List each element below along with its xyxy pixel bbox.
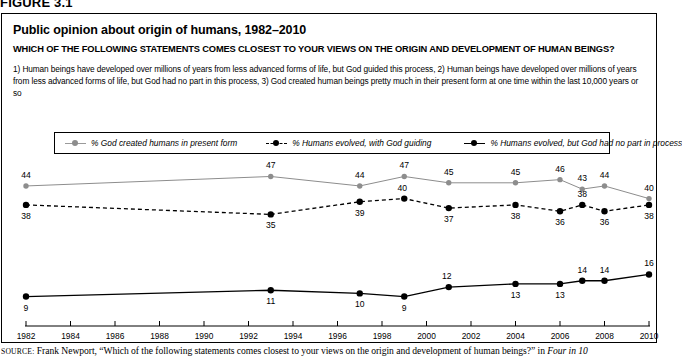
x-axis-tick-label: 2002 xyxy=(462,331,481,341)
data-point xyxy=(602,183,607,188)
data-point-label: 40 xyxy=(397,184,407,193)
data-point xyxy=(357,290,363,296)
data-point xyxy=(579,278,585,284)
chart-subtitle: WHICH OF THE FOLLOWING STATEMENTS COMES … xyxy=(13,44,615,54)
source-note: SOURCE: Frank Newport, “Which of the fol… xyxy=(1,345,657,358)
data-point xyxy=(23,202,29,208)
data-point-label: 37 xyxy=(444,215,454,224)
legend-marker-icon xyxy=(65,139,86,148)
x-axis-tick-label: 1994 xyxy=(284,331,303,341)
x-axis-tick-label: 2010 xyxy=(640,331,659,341)
data-point-label: 40 xyxy=(644,184,654,193)
data-point-label: 16 xyxy=(644,259,654,268)
x-axis-tick-label: 1988 xyxy=(150,331,169,341)
data-point-label: 45 xyxy=(444,168,454,177)
x-axis-tick-label: 1990 xyxy=(195,331,214,341)
data-point-label: 35 xyxy=(266,221,276,230)
data-point-label: 47 xyxy=(266,161,276,170)
data-point xyxy=(646,271,652,277)
data-point xyxy=(512,281,518,287)
source-label: SOURCE: xyxy=(1,347,34,356)
data-point-label: 14 xyxy=(600,266,610,275)
data-point-label: 45 xyxy=(511,168,521,177)
data-point-label: 13 xyxy=(555,291,565,300)
legend-label: % God created humans in present form xyxy=(91,138,237,148)
x-axis-tick-label: 1998 xyxy=(373,331,392,341)
data-point xyxy=(601,278,607,284)
data-point-label: 46 xyxy=(555,165,565,174)
x-axis-tick-label: 2008 xyxy=(595,331,614,341)
data-point xyxy=(557,208,563,214)
data-point xyxy=(446,180,451,185)
data-point xyxy=(446,284,452,290)
data-point-label: 38 xyxy=(21,212,31,221)
data-point xyxy=(557,281,563,287)
legend-item-evolved-no-god: % Humans evolved, but God had no part in… xyxy=(464,138,682,148)
data-point-label: 9 xyxy=(24,304,29,313)
data-point xyxy=(268,287,274,293)
source-text: Frank Newport, “Which of the following s… xyxy=(34,345,547,356)
figure-panel: Public opinion about origin of humans, 1… xyxy=(1,13,657,343)
data-point xyxy=(357,183,362,188)
data-point xyxy=(646,202,652,208)
data-point xyxy=(646,196,651,201)
x-axis-tick-label: 2004 xyxy=(506,331,525,341)
data-point xyxy=(23,293,29,299)
legend-item-god-created: % God created humans in present form xyxy=(65,138,237,148)
x-axis-tick-label: 1984 xyxy=(61,331,80,341)
legend-item-evolved-god-guiding: % Humans evolved, with God guiding xyxy=(266,138,431,148)
legend-label: % Humans evolved, with God guiding xyxy=(292,138,431,148)
data-point xyxy=(557,177,562,182)
data-point xyxy=(401,195,407,201)
data-point xyxy=(401,293,407,299)
data-point-label: 44 xyxy=(600,171,610,180)
data-point-label: 38 xyxy=(577,190,587,199)
data-point-label: 44 xyxy=(21,171,31,180)
data-point xyxy=(446,205,452,211)
data-point-label: 13 xyxy=(511,291,521,300)
data-point-label: 14 xyxy=(577,266,587,275)
data-point xyxy=(512,202,518,208)
data-point-label: 43 xyxy=(577,174,587,183)
legend-label: % Humans evolved, but God had no part in… xyxy=(490,138,682,148)
data-point xyxy=(23,183,28,188)
page-title: Public opinion about origin of humans, 1… xyxy=(13,23,306,37)
chart-note: 1) Human beings have developed over mill… xyxy=(13,63,649,100)
series-line-0 xyxy=(26,176,649,198)
data-point xyxy=(513,180,518,185)
x-axis-tick-label: 2006 xyxy=(551,331,570,341)
data-point-label: 9 xyxy=(402,304,407,313)
data-point xyxy=(402,174,407,179)
data-point xyxy=(580,186,585,191)
legend-marker-icon xyxy=(266,139,287,148)
x-axis-tick-label: 1996 xyxy=(328,331,347,341)
data-point xyxy=(268,211,274,217)
data-point xyxy=(579,202,585,208)
data-point xyxy=(601,208,607,214)
data-point-label: 12 xyxy=(442,272,452,281)
data-point-label: 10 xyxy=(355,300,365,309)
data-point xyxy=(357,199,363,205)
data-point-label: 44 xyxy=(355,171,365,180)
data-point-label: 11 xyxy=(266,297,275,306)
data-point-label: 38 xyxy=(644,212,654,221)
data-point-label: 39 xyxy=(355,209,365,218)
data-point-label: 38 xyxy=(511,212,521,221)
x-axis-tick-label: 1986 xyxy=(106,331,125,341)
data-point-label: 36 xyxy=(555,218,565,227)
data-point-label: 47 xyxy=(399,161,409,170)
series-line-2 xyxy=(26,274,649,296)
x-axis-tick-label: 1982 xyxy=(17,331,36,341)
x-axis-tick-label: 2000 xyxy=(417,331,436,341)
data-point-label: 36 xyxy=(600,218,610,227)
chart-legend: % God created humans in present form % H… xyxy=(54,132,610,154)
legend-marker-icon xyxy=(464,139,485,148)
series-line-1 xyxy=(26,199,649,215)
source-italic-title: Four in 10 xyxy=(547,345,588,356)
figure-number: FIGURE 3.1 xyxy=(0,0,73,10)
data-point xyxy=(268,174,273,179)
x-axis-tick-label: 1992 xyxy=(239,331,258,341)
